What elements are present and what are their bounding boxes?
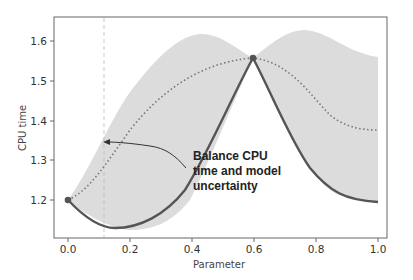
- y-tick-1.2: 1.2: [30, 194, 47, 206]
- y-tick-1.3: 1.3: [30, 154, 47, 166]
- x-tick-0.2: 0.2: [122, 243, 139, 255]
- y-tick-1.6: 1.6: [30, 35, 47, 47]
- annotation-line-3: uncertainty: [193, 179, 258, 193]
- x-axis: [68, 238, 378, 242]
- x-tick-1.0: 1.0: [370, 243, 387, 255]
- x-tick-0.6: 0.6: [246, 243, 263, 255]
- x-axis-label: Parameter: [193, 259, 246, 270]
- annotation-line-2: time and model: [193, 164, 281, 178]
- data-point-start: [65, 197, 72, 204]
- x-tick-0.8: 0.8: [308, 243, 325, 255]
- x-tick-0.0: 0.0: [60, 243, 77, 255]
- chart: Balance CPU time and model uncertainty 1…: [0, 0, 413, 280]
- x-tick-0.4: 0.4: [184, 243, 201, 255]
- annotation-line-1: Balance CPU: [193, 149, 268, 163]
- uncertainty-band: [68, 30, 378, 230]
- y-axis: [50, 41, 54, 200]
- y-tick-1.5: 1.5: [30, 75, 47, 87]
- data-point-peak: [250, 55, 257, 62]
- y-axis-label: CPU time: [17, 105, 28, 151]
- y-tick-1.4: 1.4: [30, 115, 47, 127]
